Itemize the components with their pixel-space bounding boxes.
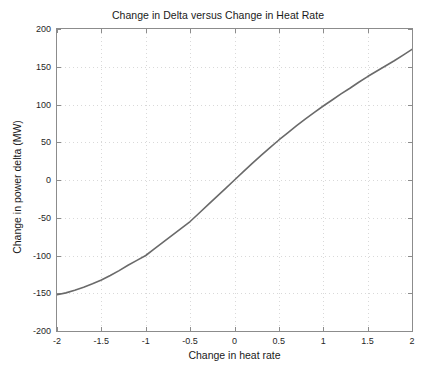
x-axis-tick-labels: -2-1.5-1-0.500.511.52 xyxy=(56,336,413,350)
x-tick-label: -1 xyxy=(126,336,166,346)
x-tick-label: -2 xyxy=(37,336,77,346)
y-tick-label: 200 xyxy=(7,24,51,34)
x-tick-label: 1.5 xyxy=(348,336,388,346)
chart-title: Change in Delta versus Change in Heat Ra… xyxy=(0,9,436,21)
x-tick-label: 0 xyxy=(215,336,255,346)
plot-area xyxy=(56,28,413,332)
x-axis-label: Change in heat rate xyxy=(56,349,413,361)
x-tick-label: 2 xyxy=(392,336,432,346)
y-axis-label-wrapper: Change in power delta (MW) xyxy=(11,35,25,339)
data-series-line xyxy=(57,49,412,294)
x-tick-label: -1.5 xyxy=(81,336,121,346)
x-tick-label: 0.5 xyxy=(259,336,299,346)
x-tick-label: -0.5 xyxy=(170,336,210,346)
x-tick-label: 1 xyxy=(303,336,343,346)
y-axis-label: Change in power delta (MW) xyxy=(11,35,23,339)
y-axis-tick-labels: -200-150-100-50050100150200 xyxy=(0,28,51,332)
plot-svg xyxy=(57,29,412,331)
figure-canvas: Change in Delta versus Change in Heat Ra… xyxy=(0,0,436,367)
